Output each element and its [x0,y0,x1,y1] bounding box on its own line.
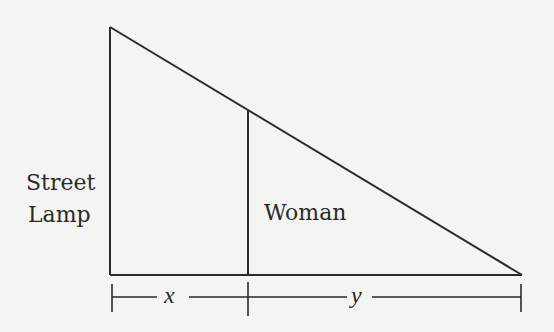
light-ray-line [110,27,522,275]
x-label: x [163,282,175,308]
street-lamp-label-line1: Street [26,170,95,195]
similar-triangles-diagram: x y Street Lamp Woman [0,0,554,332]
street-lamp-label-line2: Lamp [28,202,91,227]
woman-label: Woman [264,200,347,225]
y-label: y [349,282,362,308]
